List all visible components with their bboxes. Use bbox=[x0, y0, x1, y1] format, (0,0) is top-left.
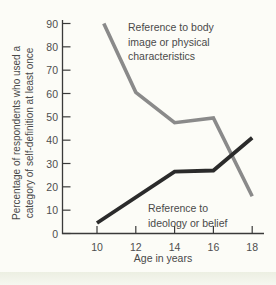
y-tick-label: 50 bbox=[36, 111, 58, 123]
y-tick-label: 0 bbox=[36, 228, 58, 240]
x-tick-label: 14 bbox=[162, 241, 188, 253]
y-tick-label: 10 bbox=[36, 204, 58, 216]
y-tick-label: 20 bbox=[36, 181, 58, 193]
series-label-body-image: Reference to body image or physical char… bbox=[128, 20, 214, 64]
chart-figure: Percentage of respondents who used a cat… bbox=[0, 0, 276, 285]
x-tick-label: 16 bbox=[200, 241, 226, 253]
y-tick-label: 30 bbox=[36, 158, 58, 170]
series-label-ideology-line1: Reference to bbox=[148, 201, 227, 216]
series-label-body-image-line2: image or physical bbox=[128, 35, 214, 50]
series-label-body-image-line1: Reference to body bbox=[128, 20, 214, 35]
series-label-ideology-line2: ideology or belief bbox=[148, 216, 227, 231]
y-tick-label: 70 bbox=[36, 64, 58, 76]
x-tick-label: 12 bbox=[123, 241, 149, 253]
page-edge-band bbox=[0, 272, 276, 285]
series-label-ideology: Reference to ideology or belief bbox=[148, 201, 227, 230]
x-tick-label: 10 bbox=[84, 241, 110, 253]
x-tick-label: 18 bbox=[239, 241, 265, 253]
y-axis-title-line1: Percentage of respondents who used a bbox=[10, 27, 23, 239]
series-label-body-image-line3: characteristics bbox=[128, 49, 214, 64]
y-tick-label: 60 bbox=[36, 88, 58, 100]
y-axis-title-line2: category of self-definition at least onc… bbox=[23, 27, 36, 239]
y-axis-title: Percentage of respondents who used a cat… bbox=[10, 27, 36, 239]
y-tick-label: 90 bbox=[36, 18, 58, 30]
x-axis-title: Age in years bbox=[113, 252, 213, 264]
y-tick-label: 80 bbox=[36, 41, 58, 53]
y-tick-label: 40 bbox=[36, 134, 58, 146]
